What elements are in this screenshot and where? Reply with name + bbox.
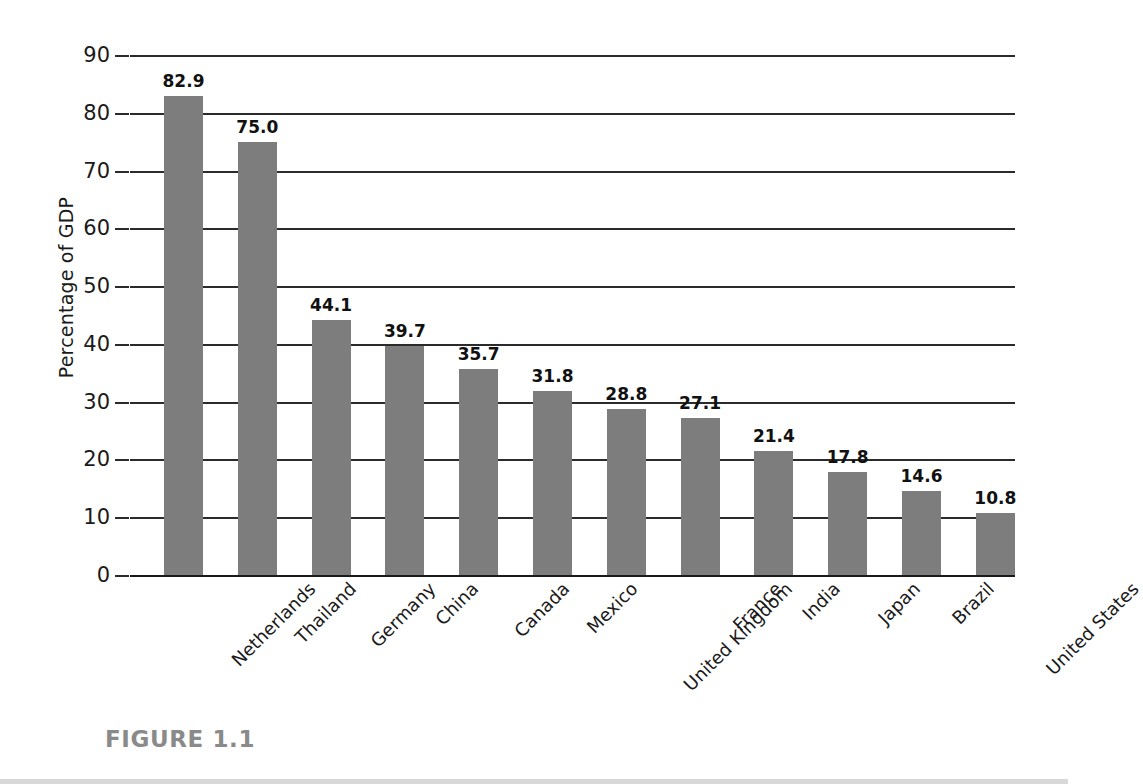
x-category-label: India [798, 578, 844, 624]
x-category-label: Japan [873, 578, 923, 628]
y-tick-label-90: 90 [70, 43, 110, 67]
bar-value-label: 35.7 [458, 344, 500, 364]
bar[interactable]: 27.1 [681, 418, 720, 575]
y-tick-mark [115, 286, 129, 288]
bar-value-label: 21.4 [753, 426, 795, 446]
y-tick-label-80: 80 [70, 101, 110, 125]
y-tick-mark [115, 228, 129, 230]
y-tick-label-20: 20 [70, 447, 110, 471]
x-category-label: Canada [510, 578, 573, 641]
gridline-80 [130, 113, 1015, 115]
caption-divider [0, 779, 1068, 784]
bar-value-label: 27.1 [679, 393, 721, 413]
x-category-label: China [431, 578, 482, 629]
y-tick-mark [115, 113, 129, 115]
y-tick-mark [115, 344, 129, 346]
y-tick-label-70: 70 [70, 159, 110, 183]
bar[interactable]: 14.6 [902, 491, 941, 575]
y-tick-mark [115, 402, 129, 404]
y-tick-label-50: 50 [70, 274, 110, 298]
bar[interactable]: 28.8 [607, 409, 646, 575]
x-category-label: Mexico [582, 578, 641, 637]
bar-value-label: 39.7 [384, 321, 426, 341]
y-tick-label-10: 10 [70, 505, 110, 529]
figure-caption: FIGURE 1.1 [105, 726, 255, 752]
y-tick-mark [115, 459, 129, 461]
bar[interactable]: 75.0 [238, 142, 277, 575]
bar-value-label: 17.8 [827, 447, 869, 467]
bar-value-label: 10.8 [974, 488, 1016, 508]
y-tick-label-60: 60 [70, 216, 110, 240]
y-tick-label-30: 30 [70, 390, 110, 414]
x-axis-category-labels: NetherlandsThailandGermanyChinaCanadaMex… [130, 578, 1015, 728]
bar[interactable]: 17.8 [828, 472, 867, 575]
y-tick-mark [115, 575, 129, 577]
bar[interactable]: 44.1 [312, 320, 351, 575]
bar[interactable]: 21.4 [754, 451, 793, 575]
plot-area: 82.975.044.139.735.731.828.827.121.417.8… [130, 55, 1015, 575]
y-tick-label-0: 0 [70, 563, 110, 587]
bar[interactable]: 39.7 [385, 346, 424, 575]
bar-value-label: 75.0 [236, 117, 278, 137]
y-tick-label-40: 40 [70, 332, 110, 356]
gridline-0 [130, 575, 1015, 577]
y-tick-mark [115, 171, 129, 173]
bar-value-label: 14.6 [901, 466, 943, 486]
x-category-label: United States [1042, 578, 1143, 679]
bar-value-label: 31.8 [532, 366, 574, 386]
bar[interactable]: 82.9 [164, 96, 203, 575]
bar[interactable]: 31.8 [533, 391, 572, 575]
bar[interactable]: 35.7 [459, 369, 498, 575]
bar-value-label: 44.1 [310, 295, 352, 315]
bar-value-label: 82.9 [163, 71, 205, 91]
gridline-90 [130, 55, 1015, 57]
bar-value-label: 28.8 [605, 384, 647, 404]
y-tick-mark [115, 517, 129, 519]
y-tick-mark [115, 55, 129, 57]
bar[interactable]: 10.8 [976, 513, 1015, 575]
x-category-label: Brazil [947, 578, 997, 628]
y-axis-tick-labels: 9080706050403020100 [55, 55, 110, 575]
x-category-label: Germany [366, 578, 439, 651]
